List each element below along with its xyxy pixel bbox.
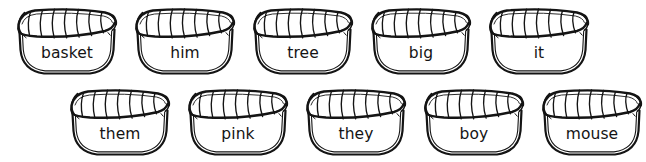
word-basket[interactable]: boy (420, 86, 528, 157)
word-basket[interactable]: them (66, 86, 174, 157)
woven-basket-icon (538, 86, 646, 157)
word-basket[interactable]: it (485, 5, 593, 76)
word-basket[interactable]: pink (184, 86, 292, 157)
word-basket[interactable]: basket (13, 5, 121, 76)
woven-basket-icon (13, 5, 121, 76)
word-basket[interactable]: him (131, 5, 239, 76)
woven-basket-icon (131, 5, 239, 76)
word-basket[interactable]: tree (249, 5, 357, 76)
woven-basket-icon (249, 5, 357, 76)
woven-basket-icon (66, 86, 174, 157)
woven-basket-icon (485, 5, 593, 76)
woven-basket-icon (302, 86, 410, 157)
woven-basket-icon (420, 86, 528, 157)
basket-row-top: baskethimtreebigit (13, 5, 593, 76)
word-basket[interactable]: they (302, 86, 410, 157)
woven-basket-icon (184, 86, 292, 157)
word-basket[interactable]: big (367, 5, 475, 76)
woven-basket-icon (367, 5, 475, 76)
word-basket[interactable]: mouse (538, 86, 646, 157)
basket-row-bottom: thempinktheyboymouse (66, 86, 646, 157)
